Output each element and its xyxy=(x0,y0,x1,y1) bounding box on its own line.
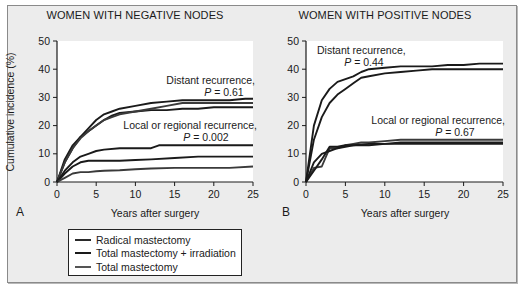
legend-line-icon xyxy=(75,252,91,254)
panel-b-distant-annotation: Distant recurrence, xyxy=(317,44,406,56)
legend-line-icon xyxy=(75,266,91,268)
panel-b-local-p-value: P = 0.67 xyxy=(435,126,475,138)
y-tick-label: 30 xyxy=(287,91,299,103)
y-tick-label: 0 xyxy=(293,176,299,188)
panel-b-letter: B xyxy=(282,205,290,219)
panel-a-local-p-value: P = 0.002 xyxy=(183,131,228,143)
panel-a: WOMEN WITH NEGATIVE NODES 01020304050051… xyxy=(4,9,259,219)
y-tick-label: 10 xyxy=(287,147,299,159)
panel-a-title: WOMEN WITH NEGATIVE NODES xyxy=(46,9,223,21)
panel-b: WOMEN WITH POSITIVE NODES 01020304050051… xyxy=(282,9,509,219)
y-tick-label: 20 xyxy=(287,119,299,131)
panel-a-distant-p-value: P = 0.61 xyxy=(204,86,244,98)
panel-b-distant-p-value: P = 0.44 xyxy=(344,56,384,68)
panel-b-title: WOMEN WITH POSITIVE NODES xyxy=(298,9,471,21)
panel-b-local-annotation: Local or regional recurrence, xyxy=(371,114,505,126)
y-tick-label: 40 xyxy=(38,63,50,75)
legend: Radical mastectomy Total mastectomy + ir… xyxy=(68,229,242,276)
panel-a-distant-annotation: Distant recurrence, xyxy=(166,74,255,86)
legend-label: Total mastectomy + irradiation xyxy=(96,247,236,259)
x-tick-label: 15 xyxy=(169,188,181,200)
panel-a-y-axis-label: Cumulative incidence (%) xyxy=(4,52,16,171)
y-tick-label: 50 xyxy=(287,35,299,47)
y-tick-label: 0 xyxy=(44,176,50,188)
y-tick-label: 20 xyxy=(38,119,50,131)
x-tick-label: 5 xyxy=(342,188,348,200)
x-tick-label: 20 xyxy=(458,188,470,200)
x-tick-label: 25 xyxy=(247,188,259,200)
legend-label: Total mastectomy xyxy=(96,261,178,273)
y-tick-label: 50 xyxy=(38,35,50,47)
x-tick-label: 0 xyxy=(54,188,60,200)
y-tick-label: 40 xyxy=(287,63,299,75)
x-tick-label: 0 xyxy=(303,188,309,200)
legend-item-total-mastectomy-irradiation: Total mastectomy + irradiation xyxy=(75,247,241,261)
x-tick-label: 20 xyxy=(208,188,220,200)
panel-a-local-annotation: Local or regional recurrence, xyxy=(123,119,257,131)
legend-line-icon xyxy=(75,239,91,241)
panel-a-distant-p-rest: = 0.61 xyxy=(211,86,244,98)
legend-item-radical-mastectomy: Radical mastectomy xyxy=(75,233,241,247)
x-tick-label: 15 xyxy=(418,188,430,200)
panel-a-x-axis-label: Years after surgery xyxy=(111,207,200,219)
legend-item-total-mastectomy: Total mastectomy xyxy=(75,260,241,274)
panel-b-plot-area xyxy=(306,41,503,182)
y-tick-label: 10 xyxy=(38,147,50,159)
legend-label: Radical mastectomy xyxy=(96,234,191,246)
y-tick-label: 30 xyxy=(38,91,50,103)
panel-b-x-axis-label: Years after surgery xyxy=(361,207,450,219)
x-tick-label: 5 xyxy=(93,188,99,200)
x-tick-label: 25 xyxy=(497,188,509,200)
panel-a-letter: A xyxy=(16,205,24,219)
x-tick-label: 10 xyxy=(130,188,142,200)
x-tick-label: 10 xyxy=(379,188,391,200)
